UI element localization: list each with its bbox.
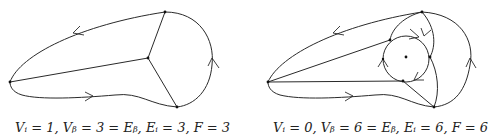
vertex-circle-left (382, 58, 384, 60)
outer-edge-top (10, 12, 165, 82)
right-caption: Vᵢ = 0, Vᵦ = 6 = Eᵦ, Eᵢ = 6, F = 6 (273, 120, 488, 135)
vertex-circle-top (389, 39, 392, 42)
inner-circle (383, 36, 429, 82)
outer-edge-right (165, 12, 212, 107)
vertex-top (421, 11, 424, 14)
arc-circle-right-to-bottom (430, 57, 437, 107)
vertex-center (147, 57, 150, 60)
outer-edge-bottom (10, 82, 177, 107)
edge-left-to-circle-bottom (268, 81, 403, 82)
arrow-top (73, 26, 84, 35)
center-point (405, 56, 408, 59)
arrow-arc-top (421, 28, 431, 36)
arrow-right (466, 58, 476, 68)
left-graph (9, 11, 219, 109)
vertex-top (164, 11, 167, 14)
inner-edge-left (10, 58, 148, 82)
left-caption: Vᵢ = 1, Vᵦ = 3 = Eᵦ, Eᵢ = 3, F = 3 (15, 120, 230, 135)
outer-edge-top (268, 12, 422, 82)
inner-edge-bottom (148, 58, 177, 107)
vertex-left (9, 81, 12, 84)
vertex-circle-bottom (402, 80, 405, 83)
edge-circle-bottom-to-bottom (403, 81, 434, 107)
right-graph (267, 11, 476, 109)
vertex-bottom (176, 106, 179, 109)
vertex-left (267, 81, 270, 84)
arrow-right (208, 58, 219, 68)
vertex-bottom (433, 106, 436, 109)
arrow-top (333, 26, 344, 35)
vertex-circle-right (429, 56, 432, 59)
inner-edge-top (148, 12, 165, 58)
arrow-circle-bottom (414, 72, 424, 80)
